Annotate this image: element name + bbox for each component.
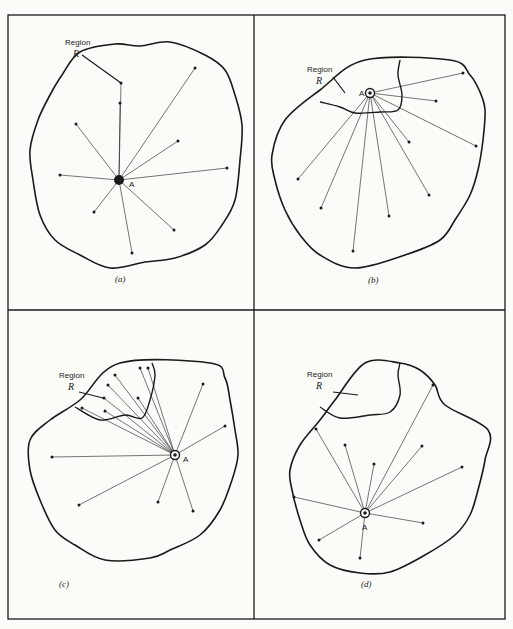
region-outline — [290, 360, 491, 574]
region-symbol: R — [315, 380, 322, 391]
sample-point — [147, 367, 150, 370]
sample-point — [75, 123, 78, 126]
point-a-center — [363, 511, 367, 515]
sample-point — [408, 141, 411, 144]
sample-point — [78, 504, 81, 507]
ray-line — [138, 398, 175, 455]
sample-point — [177, 140, 180, 143]
ray-line — [140, 368, 175, 455]
sample-point — [157, 501, 160, 504]
ray-line — [60, 175, 119, 180]
sample-point — [421, 445, 424, 448]
region-label: Region — [307, 370, 332, 379]
point-a-label: A — [129, 180, 135, 189]
region-label: Region — [65, 38, 90, 47]
region-pointer-arrow — [82, 55, 121, 83]
region-pointer-arrow — [333, 77, 345, 93]
panel-caption: (b) — [368, 275, 379, 285]
sample-point — [432, 384, 435, 387]
ray-line — [104, 398, 175, 455]
sample-point — [318, 539, 321, 542]
panel-b: RegionRA(b) — [271, 57, 485, 285]
sample-point — [352, 250, 355, 253]
sample-point — [51, 456, 54, 459]
sample-point — [119, 102, 122, 105]
sample-point — [435, 100, 438, 103]
region-pointer-arrow — [333, 392, 358, 395]
ray-line — [158, 455, 175, 502]
ray-line — [365, 513, 423, 523]
sample-point — [462, 72, 465, 75]
ray-line — [365, 385, 433, 513]
sample-point — [293, 496, 296, 499]
ray-line — [365, 446, 422, 513]
panel-caption: (c) — [59, 579, 69, 589]
sample-point — [359, 557, 362, 560]
panel-c: RegionRA(c) — [28, 360, 238, 589]
ray-line — [370, 93, 409, 142]
sample-point — [192, 510, 195, 513]
point-a-label: A — [362, 523, 368, 532]
ray-line — [148, 368, 175, 455]
sample-point — [59, 174, 62, 177]
region-label: Region — [307, 65, 332, 74]
point-a-center — [173, 453, 177, 457]
sample-point — [297, 178, 300, 181]
ray-line — [105, 411, 175, 455]
sample-point — [475, 145, 478, 148]
point-a-center — [368, 91, 372, 95]
sample-point — [93, 211, 96, 214]
ray-line — [365, 464, 374, 513]
ray-line — [119, 168, 227, 180]
panel-caption: (a) — [115, 274, 126, 284]
sample-point — [315, 428, 318, 431]
sample-point — [107, 384, 110, 387]
point-a-label: A — [183, 455, 189, 464]
figure-frame — [8, 15, 505, 619]
sample-point — [224, 425, 227, 428]
region-symbol: R — [67, 381, 74, 392]
region-symbol: R — [72, 48, 79, 59]
ray-line — [175, 384, 203, 455]
panel-caption: (d) — [361, 579, 372, 589]
sample-point — [344, 444, 347, 447]
ray-line — [319, 513, 365, 540]
point-a-marker — [114, 175, 124, 185]
sample-point — [81, 407, 84, 410]
region-symbol: R — [315, 75, 322, 86]
region-outline — [28, 360, 238, 561]
ray-line — [345, 445, 365, 513]
ray-line — [360, 513, 365, 558]
ray-line — [175, 426, 225, 455]
sample-point — [428, 194, 431, 197]
sample-point — [422, 522, 425, 525]
sample-point — [226, 167, 229, 170]
ray-line — [316, 429, 365, 513]
ray-line — [353, 93, 370, 251]
ray-line — [370, 93, 476, 146]
panel-d: RegionRA(d) — [290, 360, 491, 589]
region-outline — [271, 57, 485, 268]
ray-line — [119, 180, 174, 230]
region-label: Region — [59, 371, 84, 380]
sample-point — [320, 207, 323, 210]
ray-line — [119, 68, 195, 180]
sample-point — [137, 397, 140, 400]
point-a-label: A — [359, 89, 365, 98]
sample-point — [388, 215, 391, 218]
ray-line — [79, 455, 175, 505]
ray-line — [370, 93, 436, 101]
panel-a: RegionRA(a) — [30, 38, 242, 284]
sample-point — [373, 463, 376, 466]
sample-point — [461, 466, 464, 469]
sample-point — [194, 67, 197, 70]
ray-line — [365, 467, 462, 513]
sample-point — [173, 229, 176, 232]
ray-line — [294, 497, 365, 513]
sample-point — [114, 374, 117, 377]
ray-line — [108, 385, 175, 455]
sample-point — [131, 252, 134, 255]
figure-canvas: RegionRA(a)RegionRA(b)RegionRA(c)RegionR… — [0, 0, 513, 629]
ray-line — [76, 124, 119, 180]
sample-point — [139, 367, 142, 370]
